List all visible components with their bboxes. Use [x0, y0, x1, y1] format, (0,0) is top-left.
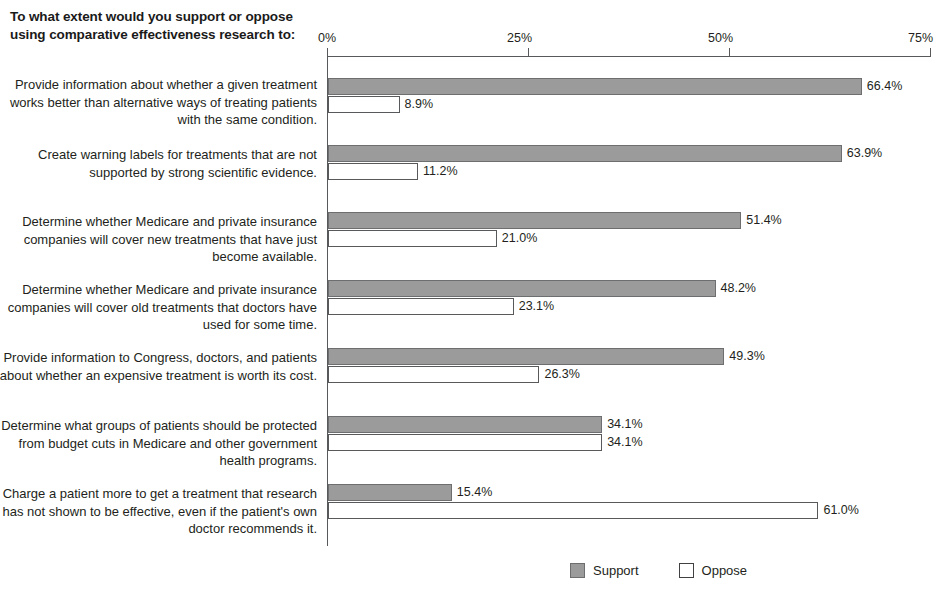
bar-row-oppose: 26.3%: [328, 366, 950, 383]
bar-support[interactable]: [328, 212, 741, 229]
bar-row-support: 15.4%: [328, 484, 950, 501]
bar-row-support: 51.4%: [328, 212, 950, 229]
category-label: Charge a patient more to get a treatment…: [0, 485, 317, 538]
legend-swatch-support-icon: [570, 563, 585, 578]
bar-value-label-oppose: 21.0%: [497, 230, 537, 247]
bar-row-support: 48.2%: [328, 280, 950, 297]
bar-support[interactable]: [328, 348, 724, 365]
bar-oppose[interactable]: [328, 434, 602, 451]
category-label: Create warning labels for treatments tha…: [0, 146, 317, 181]
bar-row-support: 63.9%: [328, 145, 950, 162]
legend-item-support[interactable]: Support: [570, 563, 639, 578]
bar-oppose[interactable]: [328, 163, 418, 180]
bar-row-oppose: 34.1%: [328, 434, 950, 451]
category-label: Provide information to Congress, doctors…: [0, 349, 317, 384]
bar-value-label-support: 34.1%: [602, 416, 642, 433]
bar-value-label-oppose: 26.3%: [539, 366, 579, 383]
bar-row-oppose: 21.0%: [328, 230, 950, 247]
chart-legend: Support Oppose: [570, 561, 747, 579]
legend-swatch-oppose-icon: [679, 563, 694, 578]
bar-row-support: 66.4%: [328, 78, 950, 95]
legend-label-oppose: Oppose: [702, 563, 748, 578]
x-tick-label-50: 50%: [708, 31, 733, 45]
bar-support[interactable]: [328, 484, 452, 501]
category-label: Determine whether Medicare and private i…: [0, 281, 317, 334]
bar-value-label-oppose: 11.2%: [418, 163, 458, 180]
bar-value-label-support: 49.3%: [724, 348, 764, 365]
bar-row-support: 34.1%: [328, 416, 950, 433]
category-label: Determine whether Medicare and private i…: [0, 213, 317, 266]
bar-support[interactable]: [328, 416, 602, 433]
bar-row-support: 49.3%: [328, 348, 950, 365]
x-tick-label-25: 25%: [507, 31, 532, 45]
bar-value-label-oppose: 23.1%: [514, 298, 554, 315]
x-axis-line: [327, 56, 931, 57]
bar-row-oppose: 11.2%: [328, 163, 950, 180]
bar-value-label-support: 66.4%: [862, 78, 902, 95]
bar-oppose[interactable]: [328, 96, 400, 113]
category-label: Determine what groups of patients should…: [0, 417, 317, 470]
bar-value-label-oppose: 61.0%: [818, 502, 858, 519]
bar-row-oppose: 61.0%: [328, 502, 950, 519]
bar-value-label-support: 15.4%: [452, 484, 492, 501]
x-tick-label-75: 75%: [908, 31, 933, 45]
bar-value-label-support: 51.4%: [741, 212, 781, 229]
legend-label-support: Support: [593, 563, 639, 578]
bar-value-label-support: 63.9%: [842, 145, 882, 162]
bar-chart-plot: 0% 25% 50% 75% Provide information about…: [0, 0, 950, 605]
bar-oppose[interactable]: [328, 298, 514, 315]
bar-value-label-oppose: 34.1%: [602, 434, 642, 451]
bar-row-oppose: 8.9%: [328, 96, 950, 113]
bar-support[interactable]: [328, 145, 842, 162]
bar-value-label-oppose: 8.9%: [400, 96, 434, 113]
bar-support[interactable]: [328, 78, 862, 95]
legend-item-oppose[interactable]: Oppose: [679, 563, 748, 578]
category-label: Provide information about whether a give…: [0, 76, 317, 129]
bar-oppose[interactable]: [328, 502, 818, 519]
bar-oppose[interactable]: [328, 230, 497, 247]
x-tick-label-0: 0%: [318, 31, 336, 45]
bar-oppose[interactable]: [328, 366, 539, 383]
bar-support[interactable]: [328, 280, 716, 297]
bar-value-label-support: 48.2%: [716, 280, 756, 297]
bar-row-oppose: 23.1%: [328, 298, 950, 315]
